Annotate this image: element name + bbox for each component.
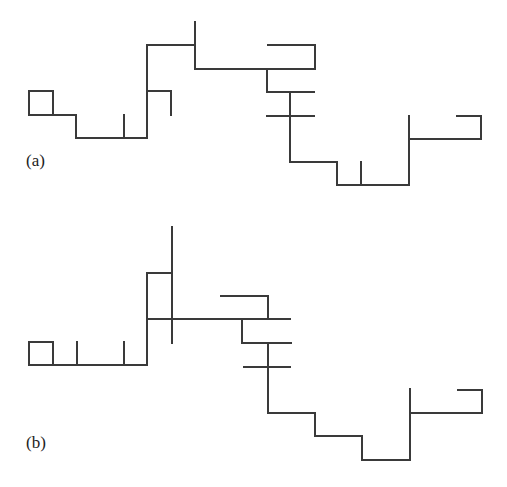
panel-a-label: (a) — [26, 151, 45, 171]
lattice-tree-diagram — [0, 0, 507, 487]
panel-a-path — [29, 22, 481, 185]
panel-b-label: (b) — [26, 433, 46, 453]
panel-b-path — [29, 227, 482, 460]
